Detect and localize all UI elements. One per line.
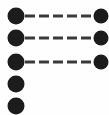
node-dot-r2 bbox=[94, 31, 109, 46]
node-dot-l3 bbox=[8, 54, 25, 71]
node-dot-r3 bbox=[94, 55, 109, 70]
node-dot-r1 bbox=[94, 9, 109, 24]
node-dot-l5 bbox=[8, 98, 25, 115]
node-dot-l4 bbox=[8, 76, 25, 93]
diagram-graphic bbox=[0, 0, 109, 115]
diagram-canvas bbox=[0, 0, 109, 115]
node-dot-l2 bbox=[8, 30, 25, 47]
node-dot-l1 bbox=[8, 8, 25, 25]
